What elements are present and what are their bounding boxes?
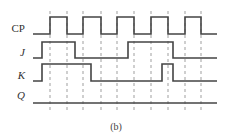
waveform-cp — [33, 17, 217, 34]
signal-label-k: K — [17, 69, 26, 81]
signal-labels: CPJKQ — [12, 22, 27, 101]
signal-label-j: J — [20, 46, 26, 58]
timing-diagram: CPJKQ (b) — [0, 0, 232, 140]
waveforms — [33, 17, 217, 103]
waveform-j — [33, 42, 217, 58]
waveform-k — [33, 64, 217, 81]
clock-edge-guides — [50, 11, 201, 110]
signal-label-q: Q — [17, 89, 25, 101]
figure-caption: (b) — [110, 121, 122, 133]
signal-label-cp: CP — [12, 22, 25, 34]
